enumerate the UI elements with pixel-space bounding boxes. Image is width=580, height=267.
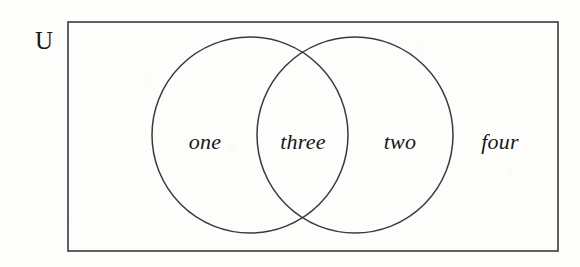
universe-label: U [35, 28, 53, 53]
venn-diagram-figure: U one three two four [0, 0, 580, 267]
region-label-intersection: three [280, 131, 325, 153]
region-label-left-only: one [189, 131, 221, 153]
region-label-right-only: two [384, 131, 416, 153]
region-label-outside: four [481, 131, 518, 153]
